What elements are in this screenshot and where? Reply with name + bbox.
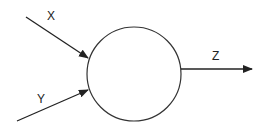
neuron-diagram: X Y Z bbox=[0, 0, 273, 131]
input-arrow-x bbox=[26, 17, 88, 58]
label-y: Y bbox=[37, 92, 45, 106]
label-z: Z bbox=[212, 49, 219, 63]
label-x: X bbox=[47, 9, 55, 23]
input-arrow-y bbox=[17, 90, 88, 121]
node-circle bbox=[87, 27, 181, 121]
